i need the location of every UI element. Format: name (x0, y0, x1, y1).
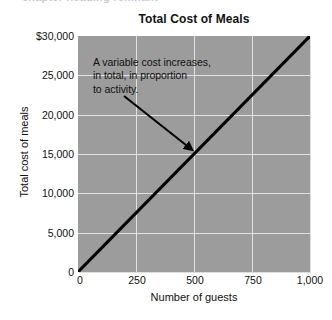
y-tick-15000: 15,000 (0, 148, 74, 160)
x-axis-title: Number of guests (78, 291, 310, 303)
x-axis-ticks: 0 250 500 750 1,000 (78, 274, 310, 290)
x-tick-1000: 1,000 (297, 274, 323, 286)
y-tick-20000: 20,000 (0, 109, 74, 121)
page-text-remnant-sliver: chapter heading remnant (22, 0, 158, 3)
chart-figure: chapter heading remnant Total Cost of Me… (0, 0, 332, 320)
y-tick-30000: $30,000 (0, 30, 74, 42)
y-axis-title: Total cost of meals (18, 72, 30, 232)
x-tick-0: 0 (77, 274, 83, 286)
page-text-remnant: chapter heading remnant (22, 0, 260, 4)
annotation-line-1: A variable cost increases, (93, 56, 253, 69)
x-tick-250: 250 (128, 274, 146, 286)
y-tick-0: 0 (0, 266, 74, 278)
y-axis-ticks: $30,000 25,000 20,000 15,000 10,000 5,00… (0, 36, 74, 272)
annotation-line-2: in total, in proportion (93, 69, 253, 82)
plot-inner: A variable cost increases, in total, in … (78, 36, 310, 272)
y-tick-5000: 5,000 (0, 227, 74, 239)
y-tick-25000: 25,000 (0, 69, 74, 81)
annotation-text: A variable cost increases, in total, in … (93, 56, 253, 96)
x-tick-750: 750 (244, 274, 262, 286)
plot-area: A variable cost increases, in total, in … (78, 36, 310, 272)
x-tick-500: 500 (186, 274, 204, 286)
chart-title: Total Cost of Meals (78, 12, 310, 26)
annotation-line-3: to activity. (93, 83, 253, 96)
y-tick-10000: 10,000 (0, 187, 74, 199)
